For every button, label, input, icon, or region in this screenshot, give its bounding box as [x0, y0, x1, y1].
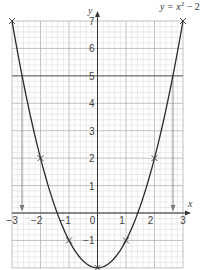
x-tick-label: 2 [148, 215, 154, 226]
x-tick-label: −1 [59, 215, 71, 226]
down-arrow-icon [19, 205, 24, 211]
y-axis-arrow-icon [95, 11, 100, 17]
x-axis-label: x [187, 198, 193, 209]
y-tick-label: 5 [89, 71, 95, 82]
y-axis-label: y [87, 5, 93, 16]
x-tick-label: −2 [31, 215, 43, 226]
y-tick-label: −1 [83, 235, 95, 246]
y-tick-labels: −11234567 [83, 16, 95, 246]
y-tick-label: 3 [89, 126, 95, 137]
down-arrow-icon [171, 205, 176, 211]
x-tick-label: 0 [90, 215, 96, 226]
x-tick-label: 3 [180, 215, 186, 226]
equation-label: y = x2 − 2 [159, 0, 200, 12]
x-tick-label: −3 [6, 215, 18, 226]
y-tick-label: 4 [89, 98, 95, 109]
y-tick-label: 2 [89, 153, 95, 164]
x-axis-arrow-icon [185, 211, 191, 216]
x-tick-label: 1 [119, 215, 125, 226]
x-tick-labels: −3−2−10123 [6, 215, 186, 226]
y-tick-label: 1 [89, 181, 95, 192]
graph-canvas: y x y = x2 − 2 −3−2−10123 −11234567 [0, 0, 204, 270]
y-tick-label: 6 [89, 43, 95, 54]
plot-overlay [9, 11, 191, 270]
y-tick-label: 7 [89, 16, 95, 27]
